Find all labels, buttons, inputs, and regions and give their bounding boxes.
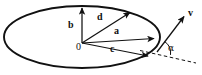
vector-a-arrow: [82, 39, 154, 44]
vector-c-label: c: [110, 44, 114, 54]
angle-alpha-label: α: [168, 44, 174, 53]
vector-ellipse-diagram: 0 a b c d v α: [0, 0, 202, 75]
vector-b-label: b: [68, 20, 74, 30]
vector-v-label: v: [188, 8, 193, 18]
vector-d-arrow: [82, 13, 130, 44]
vector-c-arrow: [82, 43, 148, 56]
vector-a-label: a: [114, 26, 119, 36]
origin-label: 0: [76, 42, 81, 52]
vector-d-label: d: [97, 12, 103, 22]
